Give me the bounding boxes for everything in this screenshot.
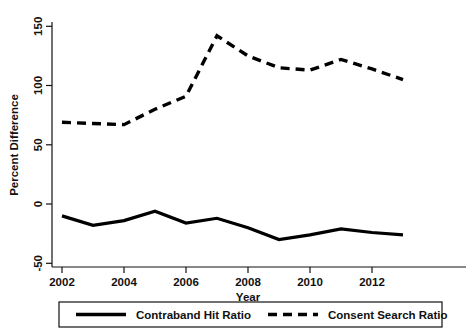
- series-line-contraband-hit-ratio: [62, 211, 403, 239]
- legend-label-consent-search-ratio: Consent Search Ratio: [328, 309, 448, 321]
- x-tick-label-2004: 2004: [111, 276, 137, 288]
- series-line-consent-search-ratio: [62, 36, 403, 125]
- y-axis-title: Percent Difference: [8, 94, 20, 196]
- y-axis-ticks: [46, 26, 52, 263]
- chart-figure: 150 100 50 0 -50 Percent Difference 2002…: [0, 0, 474, 335]
- y-tick-label-0: 0: [32, 201, 44, 207]
- y-tick-label-50: 50: [32, 138, 44, 151]
- y-tick-label-150: 150: [32, 17, 44, 36]
- x-axis-ticks: [62, 267, 372, 273]
- y-tick-label-100: 100: [32, 76, 44, 95]
- y-axis-tick-labels: 150 100 50 0 -50: [32, 17, 44, 272]
- x-axis-title: Year: [236, 291, 261, 303]
- x-tick-label-2010: 2010: [297, 276, 323, 288]
- x-tick-label-2006: 2006: [173, 276, 199, 288]
- x-tick-label-2002: 2002: [49, 276, 75, 288]
- line-chart-canvas: 150 100 50 0 -50 Percent Difference 2002…: [0, 0, 474, 335]
- y-tick-label-neg50: -50: [32, 255, 44, 272]
- legend-label-contraband-hit-ratio: Contraband Hit Ratio: [136, 309, 251, 321]
- x-tick-label-2012: 2012: [359, 276, 385, 288]
- x-tick-label-2008: 2008: [235, 276, 261, 288]
- x-axis-tick-labels: 2002 2004 2006 2008 2010 2012: [49, 276, 385, 288]
- chart-legend: Contraband Hit Ratio Consent Search Rati…: [59, 302, 448, 327]
